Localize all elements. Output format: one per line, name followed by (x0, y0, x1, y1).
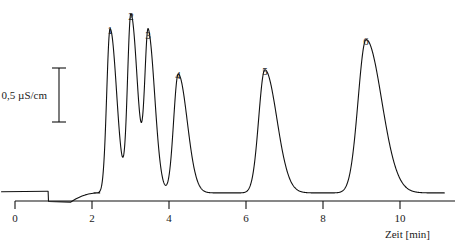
x-axis-tick-label-10: 10 (395, 212, 407, 224)
peak-label-3: 3 (145, 29, 151, 41)
x-axis-tick-label-6: 6 (243, 212, 249, 224)
x-axis-tick-label-2: 2 (89, 212, 95, 224)
chromatogram-plot: 0,5 µS/cm 0 2 4 6 8 10 Zeit [min] 1 2 3 … (0, 0, 464, 243)
scale-bar-label: 0,5 µS/cm (2, 89, 48, 101)
trace-group (2, 14, 445, 202)
peak-label-6: 6 (363, 35, 369, 47)
peak-label-2: 2 (128, 10, 134, 22)
x-axis-title: Zeit [min] (385, 228, 430, 240)
x-axis-group: 0 2 4 6 8 10 Zeit [min] (12, 201, 455, 240)
chromatogram-trace (2, 14, 445, 202)
x-axis-tick-label-4: 4 (166, 212, 172, 224)
peak-label-4: 4 (175, 69, 181, 81)
x-axis-tick-label-8: 8 (320, 212, 326, 224)
chromatogram-figure: 0,5 µS/cm 0 2 4 6 8 10 Zeit [min] 1 2 3 … (0, 0, 464, 243)
scale-bar-group: 0,5 µS/cm (2, 68, 66, 122)
x-axis-tick-label-0: 0 (12, 212, 18, 224)
peak-label-5: 5 (262, 65, 268, 77)
peak-label-1: 1 (107, 24, 113, 36)
